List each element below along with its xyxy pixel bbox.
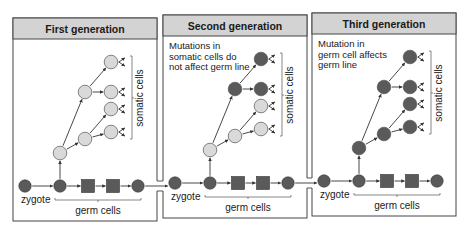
panel-title: First generation bbox=[45, 23, 124, 35]
somatic-cell-branch bbox=[78, 132, 92, 146]
germ-cell-square bbox=[82, 180, 95, 193]
somatic-cell-leaf bbox=[104, 85, 118, 99]
panel-note-line: not affect germ line bbox=[169, 61, 250, 72]
germ-cells-label: germ cells bbox=[75, 205, 121, 216]
zygote-cell bbox=[19, 180, 31, 192]
germ-cell-square bbox=[232, 177, 245, 190]
zygote-cell bbox=[318, 175, 330, 187]
zygote-label: zygote bbox=[320, 189, 350, 200]
germ-cell-square bbox=[257, 177, 270, 190]
zygote-cell bbox=[169, 177, 181, 189]
panel-note-line: somatic cells do bbox=[169, 51, 237, 62]
somatic-cell-branch bbox=[228, 129, 242, 143]
germ-cell bbox=[431, 175, 443, 187]
germ-cell-square bbox=[406, 175, 419, 188]
panel-note-line: germ line bbox=[318, 59, 357, 70]
somatic-cell-branch bbox=[377, 127, 391, 141]
germ-cells-label: germ cells bbox=[374, 200, 420, 211]
somatic-cells-label: somatic cells bbox=[284, 66, 295, 123]
somatic-cell-leaf bbox=[403, 97, 417, 111]
panel-title: Second generation bbox=[188, 20, 283, 32]
somatic-cell-leaf bbox=[403, 120, 417, 134]
somatic-cell-leaf bbox=[104, 125, 118, 139]
somatic-cell-leaf bbox=[254, 122, 268, 136]
somatic-cell-leaf bbox=[104, 55, 118, 69]
panel-title: Third generation bbox=[343, 18, 426, 30]
somatic-cells-label: somatic cells bbox=[134, 69, 145, 126]
panel-note-line: germ cell affects bbox=[318, 49, 387, 60]
somatic-cells-label: somatic cells bbox=[433, 64, 444, 121]
germ-cell bbox=[282, 177, 294, 189]
somatic-cell-branch bbox=[377, 80, 391, 94]
zygote-label: zygote bbox=[21, 194, 51, 205]
panel-1: First generationzygotegerm cellssomatic … bbox=[13, 18, 157, 221]
somatic-cell-branch bbox=[78, 85, 92, 99]
somatic-cell-leaf bbox=[254, 99, 268, 113]
somatic-cell-leaf bbox=[403, 50, 417, 64]
somatic-cell-leaf bbox=[104, 102, 118, 116]
germ-cells-label: germ cells bbox=[225, 202, 271, 213]
panel-2: Second generationMutations insomatic cel… bbox=[163, 15, 307, 218]
somatic-cell-root bbox=[352, 141, 366, 155]
generations-diagram: First generationzygotegerm cellssomatic … bbox=[0, 0, 464, 231]
somatic-cell-root bbox=[203, 143, 217, 157]
somatic-cell-root bbox=[53, 146, 67, 160]
zygote-label: zygote bbox=[171, 191, 201, 202]
germ-cell bbox=[54, 180, 66, 192]
panel-note-line: Mutation in bbox=[318, 38, 364, 49]
panel-note-line: Mutations in bbox=[169, 40, 220, 51]
somatic-cell-branch bbox=[228, 82, 242, 96]
germ-cell bbox=[353, 175, 365, 187]
somatic-cell-leaf bbox=[254, 52, 268, 66]
germ-cell-square bbox=[381, 175, 394, 188]
somatic-cell-leaf bbox=[254, 82, 268, 96]
panel-3: Third generationMutation ingerm cell aff… bbox=[312, 13, 456, 216]
germ-cell bbox=[204, 177, 216, 189]
germ-cell bbox=[132, 180, 144, 192]
germ-cell-square bbox=[107, 180, 120, 193]
somatic-cell-leaf bbox=[403, 80, 417, 94]
